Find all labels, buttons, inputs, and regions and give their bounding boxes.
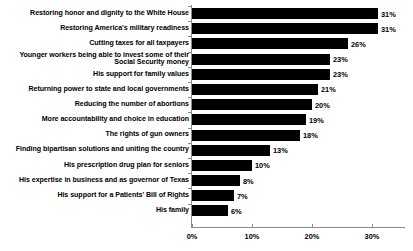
category-tick — [188, 36, 191, 37]
category-tick — [188, 52, 191, 53]
x-axis-tick-label: 20% — [305, 232, 320, 241]
bar-category-label: Restoring America's military readiness — [4, 25, 189, 33]
bar-row: His prescription drug plan for seniors10… — [0, 158, 413, 173]
bar-track: 31% — [192, 23, 378, 34]
bar-row: His expertise in business and as governo… — [0, 173, 413, 188]
x-axis-tick — [252, 224, 253, 227]
bar-value-label: 23% — [330, 55, 348, 64]
bar — [192, 38, 348, 49]
bar-value-label: 13% — [270, 146, 288, 155]
bar-row: Restoring America's military readiness31… — [0, 21, 413, 36]
bar-track: 7% — [192, 190, 234, 201]
bar-rows: Restoring honor and dignity to the White… — [0, 6, 413, 219]
bar-track: 10% — [192, 160, 252, 171]
bar-category-label: His expertise in business and as governo… — [4, 177, 189, 185]
bar-track: 31% — [192, 8, 378, 19]
bar — [192, 99, 312, 110]
bar-row: The rights of gun owners18% — [0, 128, 413, 143]
x-axis-tick — [192, 224, 193, 227]
bar-category-label: Reducing the number of abortions — [4, 101, 189, 109]
bar-track: 23% — [192, 69, 330, 80]
bar-value-label: 31% — [378, 24, 396, 33]
bar-track: 20% — [192, 99, 312, 110]
bar-chart: Restoring honor and dignity to the White… — [0, 0, 413, 251]
bar — [192, 190, 234, 201]
category-tick — [188, 128, 191, 129]
category-tick — [188, 158, 191, 159]
bar — [192, 205, 228, 216]
bar-track: 19% — [192, 114, 306, 125]
bar-value-label: 19% — [306, 115, 324, 124]
category-tick — [188, 82, 191, 83]
bar-category-label: His support for family values — [4, 71, 189, 79]
bar-category-label: Younger workers being able to invest som… — [4, 52, 189, 67]
bar-track: 26% — [192, 38, 348, 49]
x-axis-tick-label: 0% — [187, 232, 198, 241]
bar-row: Reducing the number of abortions20% — [0, 97, 413, 112]
value-axis-line — [191, 227, 405, 228]
bar-value-label: 18% — [300, 131, 318, 140]
bar-value-label: 8% — [240, 176, 254, 185]
x-axis-tick-label: 10% — [245, 232, 260, 241]
category-tick — [188, 67, 191, 68]
bar-value-label: 23% — [330, 70, 348, 79]
x-axis-tick — [372, 224, 373, 227]
bar-row: More accountability and choice in educat… — [0, 112, 413, 127]
category-tick — [188, 6, 191, 7]
bar-value-label: 21% — [318, 85, 336, 94]
bar-row: His support for a Patients' Bill of Righ… — [0, 188, 413, 203]
bar-category-label: The rights of gun owners — [4, 131, 189, 139]
bar-row: Restoring honor and dignity to the White… — [0, 6, 413, 21]
bar — [192, 145, 270, 156]
bar-row: His support for family values23% — [0, 67, 413, 82]
bar-category-label: Cutting taxes for all taxpayers — [4, 40, 189, 48]
bar-value-label: 6% — [228, 206, 242, 215]
bar-row: Returning power to state and local gover… — [0, 82, 413, 97]
bar-category-label: His family — [4, 207, 189, 215]
bar — [192, 69, 330, 80]
bar-category-label: Returning power to state and local gover… — [4, 86, 189, 94]
category-tick — [188, 173, 191, 174]
bar — [192, 54, 330, 65]
x-axis-tick-label: 30% — [365, 232, 380, 241]
bar-row: Finding bipartisan solutions and uniting… — [0, 143, 413, 158]
bar — [192, 114, 306, 125]
bar-track: 23% — [192, 54, 330, 65]
category-tick — [188, 188, 191, 189]
bar-category-label: Finding bipartisan solutions and uniting… — [4, 146, 189, 154]
category-tick — [188, 112, 191, 113]
bar-value-label: 20% — [312, 100, 330, 109]
bar-value-label: 31% — [378, 9, 396, 18]
category-tick — [188, 21, 191, 22]
bar-row: Younger workers being able to invest som… — [0, 52, 413, 67]
bar — [192, 175, 240, 186]
bar-track: 18% — [192, 130, 300, 141]
bar — [192, 130, 300, 141]
x-axis-tick — [312, 224, 313, 227]
bar — [192, 160, 252, 171]
category-tick — [188, 143, 191, 144]
bar-track: 8% — [192, 175, 240, 186]
bar — [192, 8, 378, 19]
bar-row: Cutting taxes for all taxpayers26% — [0, 36, 413, 51]
bar-category-label: More accountability and choice in educat… — [4, 116, 189, 124]
bar-category-label: Restoring honor and dignity to the White… — [4, 10, 189, 18]
bar-value-label: 10% — [252, 161, 270, 170]
bar-track: 6% — [192, 205, 228, 216]
plot-area: Restoring honor and dignity to the White… — [0, 0, 413, 251]
category-tick — [188, 204, 191, 205]
bar-track: 21% — [192, 84, 318, 95]
bar-value-label: 7% — [234, 191, 248, 200]
bar-category-label: His prescription drug plan for seniors — [4, 162, 189, 170]
bar — [192, 23, 378, 34]
bar-track: 13% — [192, 145, 270, 156]
bar-category-label: His support for a Patients' Bill of Righ… — [4, 192, 189, 200]
bar — [192, 84, 318, 95]
bar-row: His family6% — [0, 203, 413, 218]
bar-value-label: 26% — [348, 39, 366, 48]
category-tick — [188, 97, 191, 98]
